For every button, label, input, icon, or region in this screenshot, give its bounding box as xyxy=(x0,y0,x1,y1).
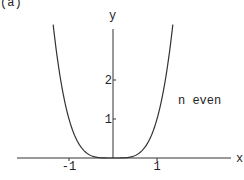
x-tick-label: 1 xyxy=(153,160,160,174)
x-tick-label: -1 xyxy=(62,160,76,174)
ticks: -1112 xyxy=(62,74,161,174)
annotation-n-even: n even xyxy=(178,94,221,108)
x-axis-label: x xyxy=(236,152,243,166)
y-axis-label: y xyxy=(109,9,116,23)
panel-label: (a) xyxy=(0,0,22,10)
y-tick-label: 2 xyxy=(105,74,112,88)
y-tick-label: 1 xyxy=(105,113,112,127)
chart: (a) -1112 x y n even xyxy=(0,0,244,180)
